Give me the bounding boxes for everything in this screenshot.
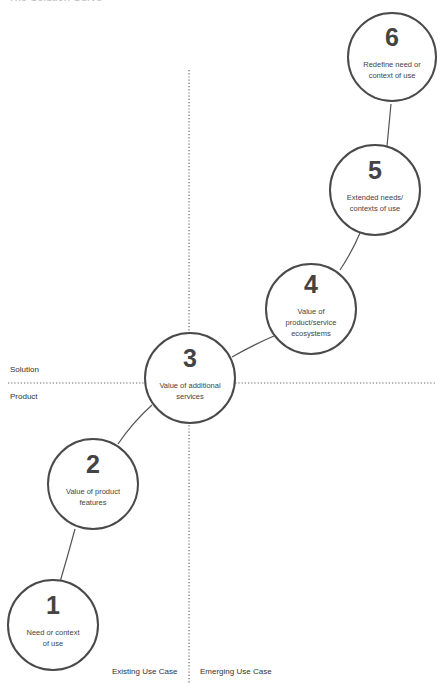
node-2: 2 Value of product features [47, 438, 139, 530]
existing-use-case-label: Existing Use Case [112, 667, 177, 676]
node-label: Extended needs/ contexts of use [342, 192, 408, 214]
connector-5-6 [387, 104, 391, 146]
connector-3-4 [232, 336, 274, 357]
solution-label: Solution [10, 365, 39, 374]
node-number: 1 [46, 593, 60, 618]
node-label: Value of additional services [155, 380, 225, 402]
node-label: Value of product features [62, 486, 124, 508]
connector-2-3 [118, 405, 152, 444]
connector-1-2 [60, 529, 75, 582]
node-label: Redefine need or context of use [360, 59, 424, 81]
product-label: Product [10, 392, 38, 401]
node-6: 6 Redefine need or context of use [347, 12, 437, 102]
node-1: 1 Need or context of use [7, 579, 99, 671]
node-4: 4 Value of product/service ecosystems [265, 263, 357, 355]
node-3: 3 Value of additional services [144, 332, 236, 424]
node-label: Value of product/service ecosystems [278, 306, 344, 339]
emerging-use-case-label: Emerging Use Case [200, 667, 272, 676]
node-number: 3 [183, 346, 197, 371]
node-number: 4 [304, 272, 318, 297]
node-5: 5 Extended needs/ contexts of use [329, 144, 421, 236]
node-number: 5 [368, 158, 382, 183]
connector-4-5 [340, 233, 360, 270]
node-number: 6 [385, 25, 399, 50]
node-number: 2 [86, 452, 100, 477]
node-label: Need or context of use [23, 627, 83, 649]
